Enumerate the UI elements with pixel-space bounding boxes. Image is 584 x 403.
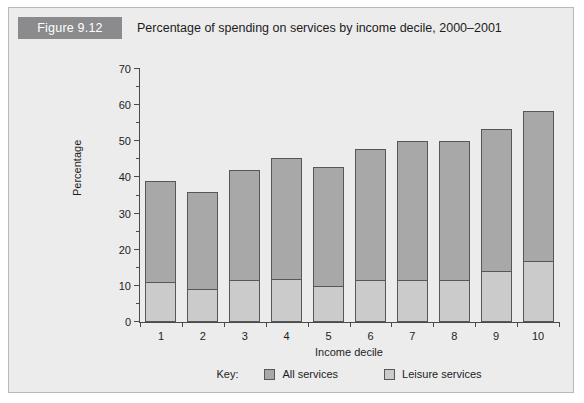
- legend-label-leisure-services: Leisure services: [402, 368, 481, 380]
- x-tick: [559, 322, 560, 327]
- y-tick-label: 50: [119, 135, 131, 147]
- x-tick-label: 5: [325, 330, 331, 342]
- x-tick: [433, 322, 434, 327]
- x-tick: [266, 322, 267, 327]
- legend-key-label: Key:: [216, 368, 238, 380]
- legend-swatch-leisure-services: [384, 369, 395, 380]
- legend-entry-all-services: All services: [264, 368, 338, 380]
- legend-entry-leisure-services: Leisure services: [384, 368, 481, 380]
- y-tick-label: 30: [119, 208, 131, 220]
- x-tick-label: 3: [242, 330, 248, 342]
- y-tick-label: 60: [119, 99, 131, 111]
- x-tick-label: 7: [409, 330, 415, 342]
- y-tick-label: 70: [119, 63, 131, 75]
- y-tick-label: 10: [119, 280, 131, 292]
- y-tick-label: 20: [119, 244, 131, 256]
- bar-segment-leisure-services[interactable]: [355, 280, 386, 322]
- bar-segment-leisure-services[interactable]: [397, 280, 428, 322]
- bar-group[interactable]: [397, 141, 428, 322]
- bar-segment-leisure-services[interactable]: [145, 282, 176, 322]
- x-tick-label: 1: [158, 330, 164, 342]
- plot-area: 010203040506070 12345678910: [139, 69, 559, 323]
- x-tick: [517, 322, 518, 327]
- x-tick: [224, 322, 225, 327]
- y-tick-minor: [136, 267, 140, 268]
- x-tick: [475, 322, 476, 327]
- y-tick-major: [134, 140, 140, 141]
- chart-plot-wrapper: Percentage 010203040506070 12345678910 I…: [9, 8, 575, 394]
- y-tick-major: [134, 176, 140, 177]
- bar-group[interactable]: [355, 149, 386, 322]
- bar-group[interactable]: [313, 167, 344, 322]
- y-tick-minor: [136, 303, 140, 304]
- bar-group[interactable]: [187, 192, 218, 322]
- bar-group[interactable]: [229, 170, 260, 322]
- y-tick-minor: [136, 86, 140, 87]
- bar-group[interactable]: [523, 111, 554, 322]
- x-tick: [182, 322, 183, 327]
- y-tick-label: 40: [119, 171, 131, 183]
- x-tick: [350, 322, 351, 327]
- x-tick-label: 9: [493, 330, 499, 342]
- x-axis-title: Income decile: [139, 346, 559, 358]
- bar-segment-leisure-services[interactable]: [187, 289, 218, 322]
- y-tick-minor: [136, 231, 140, 232]
- bar-segment-leisure-services[interactable]: [313, 286, 344, 322]
- y-tick-label: 0: [125, 316, 131, 328]
- y-tick-major: [134, 213, 140, 214]
- figure-panel: Figure 9.12 Percentage of spending on se…: [8, 7, 574, 393]
- bar-group[interactable]: [145, 181, 176, 322]
- x-tick-label: 6: [367, 330, 373, 342]
- bar-group[interactable]: [271, 158, 302, 322]
- x-tick-label: 8: [451, 330, 457, 342]
- bar-group[interactable]: [481, 129, 512, 322]
- x-tick: [391, 322, 392, 327]
- bar-segment-leisure-services[interactable]: [271, 279, 302, 322]
- bars-layer: [140, 69, 559, 322]
- bar-group[interactable]: [439, 141, 470, 322]
- y-tick-minor: [136, 195, 140, 196]
- y-tick-major: [134, 249, 140, 250]
- legend-label-all-services: All services: [282, 368, 338, 380]
- y-axis-title: Percentage: [71, 140, 83, 196]
- x-tick: [308, 322, 309, 327]
- x-tick-label: 2: [200, 330, 206, 342]
- bar-segment-leisure-services[interactable]: [439, 280, 470, 322]
- bar-segment-leisure-services[interactable]: [229, 280, 260, 322]
- legend-swatch-all-services: [264, 369, 275, 380]
- bar-segment-leisure-services[interactable]: [481, 271, 512, 322]
- y-tick-major: [134, 285, 140, 286]
- y-tick-minor: [136, 122, 140, 123]
- y-tick-major: [134, 104, 140, 105]
- x-tick-label: 10: [532, 330, 544, 342]
- bar-segment-leisure-services[interactable]: [523, 261, 554, 322]
- chart-legend: Key: All services Leisure services: [139, 368, 559, 380]
- y-tick-minor: [136, 158, 140, 159]
- x-tick: [140, 322, 141, 327]
- x-tick-label: 4: [284, 330, 290, 342]
- y-tick-major: [134, 68, 140, 69]
